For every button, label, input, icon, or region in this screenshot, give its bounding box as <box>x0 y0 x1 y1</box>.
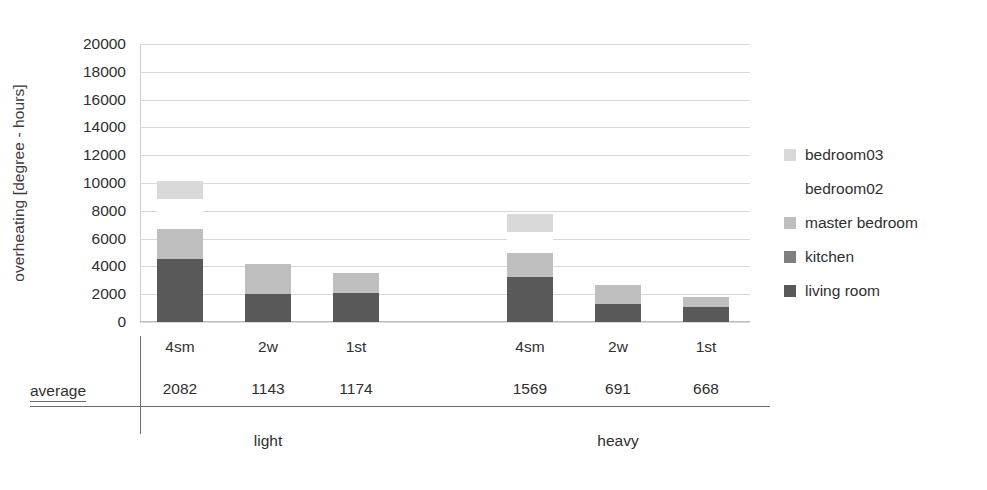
bar-4sm-0[interactable] <box>157 181 203 322</box>
chart-root: overheating [degree - hours] 20000180001… <box>0 0 987 490</box>
y-axis-tick-16000: 16000 <box>83 92 126 108</box>
legend-item-bedroom03[interactable]: bedroom03 <box>784 138 984 172</box>
y-axis-tick-2000: 2000 <box>92 286 126 302</box>
gridline <box>140 44 750 45</box>
average-value-0: 2082 <box>140 380 220 398</box>
y-axis-tick-10000: 10000 <box>83 175 126 191</box>
legend-item-bedroom02[interactable]: bedroom02 <box>784 172 984 206</box>
table-horizontal-divider <box>30 406 770 407</box>
bar-segment-master-bedroom[interactable] <box>245 264 291 294</box>
y-axis-tick-6000: 6000 <box>92 231 126 247</box>
y-axis-tick-4000: 4000 <box>92 259 126 275</box>
y-axis-tick-12000: 12000 <box>83 147 126 163</box>
bar-4sm-3[interactable] <box>507 214 553 322</box>
bar-segment-living-room[interactable] <box>333 293 379 322</box>
x-label-2: 1st <box>321 338 391 356</box>
gridline <box>140 72 750 73</box>
legend-label: bedroom02 <box>805 180 883 198</box>
y-axis-tick-14000: 14000 <box>83 120 126 136</box>
x-label-0: 4sm <box>145 338 215 356</box>
plot-area <box>140 44 750 322</box>
average-value-3: 1569 <box>490 380 570 398</box>
average-value-5: 668 <box>666 380 746 398</box>
bar-2w-1[interactable] <box>245 264 291 322</box>
legend-label: master bedroom <box>805 214 918 232</box>
average-table: average 2082114311741569691668 <box>0 368 770 420</box>
legend-swatch-icon <box>784 251 796 263</box>
legend-label: living room <box>805 282 880 300</box>
average-value-1: 1143 <box>228 380 308 398</box>
average-value-4: 691 <box>578 380 658 398</box>
bar-segment-living-room[interactable] <box>595 304 641 322</box>
gridline <box>140 127 750 128</box>
x-label-1: 2w <box>233 338 303 356</box>
y-axis-tick-0: 0 <box>117 314 126 330</box>
bar-segment-master-bedroom[interactable] <box>595 285 641 304</box>
bar-segment-bedroom03[interactable] <box>157 181 203 199</box>
legend-swatch-icon <box>784 149 796 161</box>
bar-segment-master-bedroom[interactable] <box>683 297 729 307</box>
bar-1st-5[interactable] <box>683 297 729 322</box>
average-value-2: 1174 <box>316 380 396 398</box>
legend-item-kitchen[interactable]: kitchen <box>784 240 984 274</box>
legend-swatch-icon <box>784 285 796 297</box>
bar-segment-master-bedroom[interactable] <box>157 229 203 259</box>
gridline <box>140 155 750 156</box>
legend-label: bedroom03 <box>805 146 883 164</box>
legend-label: kitchen <box>805 248 854 266</box>
bar-segment-living-room[interactable] <box>683 307 729 322</box>
bar-segment-bedroom02[interactable] <box>157 199 203 229</box>
y-axis-title: overheating [degree - hours] <box>8 44 30 322</box>
average-row-label: average <box>30 382 86 402</box>
chart-legend: bedroom03bedroom02master bedroomkitchenl… <box>784 138 984 308</box>
bar-segment-master-bedroom[interactable] <box>507 253 553 277</box>
gridline <box>140 100 750 101</box>
legend-item-master-bedroom[interactable]: master bedroom <box>784 206 984 240</box>
y-axis-tick-labels: 2000018000160001400012000100008000600040… <box>56 44 132 322</box>
gridline <box>140 294 750 295</box>
bar-segment-bedroom02[interactable] <box>507 232 553 253</box>
group-label-heavy: heavy <box>558 432 678 450</box>
gridline <box>140 183 750 184</box>
x-label-3: 4sm <box>495 338 565 356</box>
y-axis-tick-20000: 20000 <box>83 36 126 52</box>
bar-segment-living-room[interactable] <box>245 294 291 322</box>
x-label-5: 1st <box>671 338 741 356</box>
group-label-light: light <box>208 432 328 450</box>
gridline <box>140 266 750 267</box>
bar-segment-bedroom03[interactable] <box>507 214 553 232</box>
legend-swatch-icon <box>784 217 796 229</box>
group-labels: lightheavy <box>0 432 770 458</box>
bar-segment-master-bedroom[interactable] <box>333 273 379 293</box>
bar-segment-living-room[interactable] <box>157 259 203 322</box>
bar-2w-4[interactable] <box>595 285 641 322</box>
y-axis-tick-18000: 18000 <box>83 64 126 80</box>
bar-segment-living-room[interactable] <box>507 277 553 322</box>
legend-item-living-room[interactable]: living room <box>784 274 984 308</box>
gridline <box>140 211 750 212</box>
x-label-4: 2w <box>583 338 653 356</box>
bar-1st-2[interactable] <box>333 273 379 322</box>
gridline <box>140 239 750 240</box>
x-axis-category-labels: 4sm2w1st4sm2w1st <box>140 338 750 362</box>
gridline <box>140 322 750 323</box>
y-axis-tick-8000: 8000 <box>92 203 126 219</box>
legend-swatch-icon <box>784 183 796 195</box>
